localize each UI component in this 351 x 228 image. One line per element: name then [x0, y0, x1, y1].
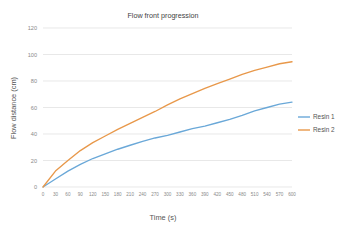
x-tick-label: 150: [101, 192, 109, 197]
x-tick-label: 30: [53, 192, 59, 197]
x-tick-label: 540: [263, 192, 271, 197]
y-tick-label: 0: [34, 184, 37, 190]
y-tick-label: 100: [28, 52, 37, 58]
x-tick-label: 240: [139, 192, 147, 197]
y-tick-label: 80: [31, 78, 37, 84]
y-axis-title: Flow distance (cm): [9, 77, 18, 139]
x-tick-label: 60: [65, 192, 71, 197]
legend-label[interactable]: Resin 1: [313, 113, 335, 120]
y-tick-label: 40: [31, 131, 37, 137]
x-axis-tick-labels: 0306090120150180210240270300330360390420…: [42, 192, 297, 197]
x-tick-label: 390: [201, 192, 209, 197]
x-tick-label: 210: [126, 192, 134, 197]
y-tick-label: 120: [28, 25, 37, 31]
x-tick-label: 0: [42, 192, 45, 197]
x-tick-label: 420: [213, 192, 221, 197]
x-tick-label: 480: [238, 192, 246, 197]
y-tick-label: 20: [31, 158, 37, 164]
x-tick-label: 600: [288, 192, 296, 197]
x-tick-label: 360: [189, 192, 197, 197]
chart-title: Flow front progression: [127, 11, 198, 20]
x-tick-label: 570: [276, 192, 284, 197]
x-tick-label: 120: [89, 192, 97, 197]
x-tick-label: 330: [176, 192, 184, 197]
flow-front-progression-chart: Flow front progression 020406080100120 0…: [0, 0, 351, 228]
x-tick-label: 270: [151, 192, 159, 197]
x-tick-label: 300: [164, 192, 172, 197]
x-tick-label: 450: [226, 192, 234, 197]
chart-container: Flow front progression 020406080100120 0…: [0, 0, 351, 228]
x-tick-label: 90: [78, 192, 84, 197]
y-tick-label: 60: [31, 105, 37, 111]
legend-label[interactable]: Resin 2: [313, 126, 335, 133]
x-axis-title: Time (s): [150, 213, 177, 222]
x-tick-label: 180: [114, 192, 122, 197]
x-tick-label: 510: [251, 192, 259, 197]
